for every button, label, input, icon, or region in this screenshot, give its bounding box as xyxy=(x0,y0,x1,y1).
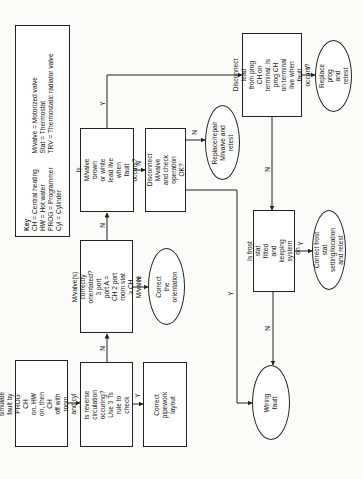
valve-lead-live-box: Is M/valve brown or white lead live when… xyxy=(80,128,134,212)
key-legend: Key CH = Central heating HW = Hot water … xyxy=(15,25,70,237)
frost-stat-box: Is frost stat fitted and keeping system … xyxy=(253,210,295,292)
valve-orientation-box: M/valve(s) correctly orientated? 3 port … xyxy=(80,240,133,333)
label-no: N xyxy=(191,130,198,135)
label-no: N xyxy=(135,161,142,166)
label-no: N xyxy=(99,346,106,351)
disconnect-lead-box: Disconnect lead from prog CH on terminal… xyxy=(242,33,302,117)
reverse-circulation-text: Is reverse circulation occuring? Use 3 T… xyxy=(83,390,131,420)
wiring-fault-text: Wiring fault xyxy=(263,393,279,412)
start-box: Attempt to simulate fault by PROG CH on,… xyxy=(15,360,68,447)
replace-valve-text: Replace/repair M/valve and retest xyxy=(211,121,235,164)
correct-frost-stat-oval: Correct frost stat setting/location and … xyxy=(312,210,346,290)
label-no: N xyxy=(99,223,106,228)
key-col-1: CH = Central heating HW = Hot water PROG… xyxy=(31,167,62,231)
replace-valve-oval: Replace/repair M/valve and retest xyxy=(205,105,240,180)
reverse-circulation-box: Is reverse circulation occuring? Use 3 T… xyxy=(80,362,133,447)
key-col-2: M/valve = Motorized valve Stat = Thermos… xyxy=(23,53,63,153)
correct-orientation-text: Correct the orientation xyxy=(155,271,179,302)
replace-prog-text: Replace prog and retest xyxy=(318,64,350,88)
frost-stat-text: Is frost stat fitted and keeping system … xyxy=(246,239,302,262)
key-title: Key xyxy=(23,219,30,231)
valve-lead-live-text: Is M/valve brown or white lead live when… xyxy=(75,157,139,183)
replace-prog-oval: Replace prog and retest xyxy=(315,40,352,112)
valve-orientation-text: M/valve(s) correctly orientated? 3 port … xyxy=(71,270,143,303)
disconnect-lead-text: Disconnect lead from prog CH on terminal… xyxy=(232,59,312,92)
correct-pipework-box: Correct pipework layout xyxy=(143,362,187,447)
label-no: N xyxy=(264,167,271,172)
label-yes: Y xyxy=(297,241,304,245)
label-yes: Y xyxy=(304,65,311,69)
correct-pipework-text: Correct pipework layout xyxy=(153,391,177,417)
label-no: N xyxy=(135,277,142,282)
disconnect-valve-text: Disconnect M/valve and check operation O… xyxy=(146,154,186,187)
correct-orientation-oval: Correct the orientation xyxy=(148,248,185,325)
disconnect-valve-box: Disconnect M/valve and check operation O… xyxy=(145,128,186,212)
label-yes: Y xyxy=(227,291,234,295)
label-no: N xyxy=(264,326,271,331)
correct-frost-stat-text: Correct frost stat setting/location and … xyxy=(313,228,345,272)
label-yes: Y xyxy=(134,393,141,397)
label-yes: Y xyxy=(99,101,106,105)
wiring-fault-oval: Wiring fault xyxy=(252,365,290,440)
